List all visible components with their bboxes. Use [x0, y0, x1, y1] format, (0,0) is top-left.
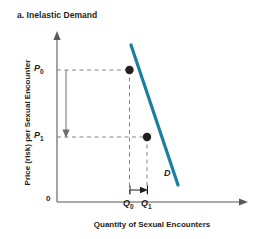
price-tick-p1-sub: 1	[40, 135, 44, 142]
y-axis-label: Price (risk) per Sexual Encounter	[23, 48, 32, 198]
price-decrease-arrowhead	[62, 130, 69, 139]
quantity-tick-q1-text: Q	[141, 198, 148, 208]
demand-curve-label: D	[164, 168, 171, 178]
price-tick-p0-sub: 0	[40, 68, 44, 75]
quantity-tick-q0: Q0	[123, 198, 134, 210]
x-axis-arrowhead	[239, 198, 248, 205]
quantity-tick-q0-sub: 0	[130, 203, 134, 210]
x-axis-label: Quantity of Sexual Encounters	[57, 220, 247, 229]
price-tick-p1: P1	[34, 130, 44, 142]
quantity-tick-q1-sub: 1	[148, 203, 152, 210]
quantity-tick-q1: Q1	[141, 198, 152, 210]
origin-label: 0	[46, 194, 50, 203]
equilibrium-point-high	[125, 66, 133, 74]
demand-curve	[131, 45, 178, 185]
equilibrium-point-low	[143, 133, 151, 141]
y-axis-arrowhead	[53, 31, 60, 40]
chart-figure: a. Inelastic Demand Price (risk) per Sex…	[0, 0, 257, 239]
quantity-tick-q0-text: Q	[123, 198, 130, 208]
price-tick-p0: P0	[34, 63, 44, 75]
